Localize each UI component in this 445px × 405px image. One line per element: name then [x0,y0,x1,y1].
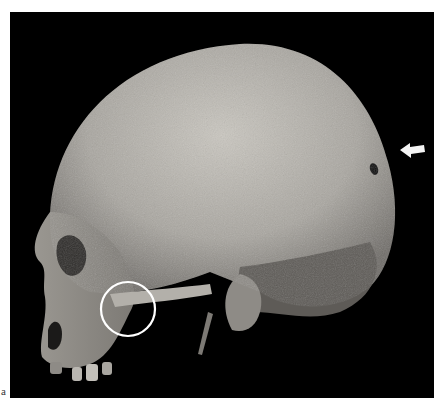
skull-photograph [10,12,434,398]
arrow-icon [400,143,425,158]
skull-illustration [10,12,434,398]
panel-label: a [1,385,6,397]
